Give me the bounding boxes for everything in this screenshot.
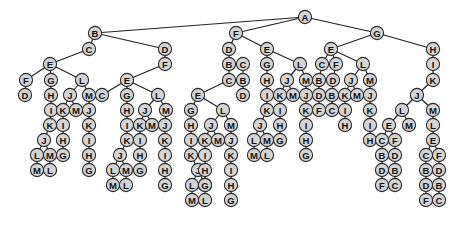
node-label: I — [279, 105, 282, 116]
node-label: E — [195, 90, 201, 101]
tree-node: J — [63, 88, 76, 101]
node-label: L — [360, 59, 366, 70]
tree-node: D — [388, 148, 401, 161]
tree-node: D — [375, 163, 388, 176]
node-label: K — [60, 105, 67, 116]
node-label: H — [162, 165, 169, 176]
tree-node: C — [82, 42, 95, 55]
tree-node: I — [363, 118, 376, 131]
tree-node: J — [410, 88, 423, 101]
tree-node: J — [204, 118, 217, 131]
tree-node: J — [280, 73, 293, 86]
tree-node: I — [184, 133, 197, 146]
node-label: J — [86, 105, 91, 116]
tree-edge — [377, 33, 433, 49]
tree-node: C — [419, 148, 432, 161]
tree-node: M — [30, 163, 43, 176]
tree-node: K — [43, 118, 56, 131]
node-label: J — [41, 135, 46, 146]
tree-node: I — [56, 118, 69, 131]
tree-node: H — [184, 118, 197, 131]
tree-node: H — [273, 118, 286, 131]
node-label: M — [109, 180, 117, 191]
node-label: I — [50, 105, 53, 116]
tree-node: L — [151, 88, 164, 101]
node-label: K — [228, 150, 235, 161]
node-label: H — [228, 180, 235, 191]
tree-node: K — [120, 133, 133, 146]
node-label: D — [330, 75, 337, 86]
tree-node: B — [419, 163, 432, 176]
node-label: B — [226, 59, 233, 70]
node-label: L — [47, 165, 53, 176]
tree-node: D — [419, 178, 432, 191]
node-label: G — [276, 135, 283, 146]
node-label: G — [227, 195, 234, 206]
node-label: I — [230, 165, 233, 176]
tree-node: F — [375, 178, 388, 191]
node-label: M — [46, 150, 54, 161]
tree-node: K — [56, 103, 69, 116]
tree-node: M — [82, 88, 95, 101]
tree-node: B — [432, 178, 445, 191]
node-label: G — [302, 150, 309, 161]
node-label: B — [316, 75, 323, 86]
tree-node: M — [286, 88, 299, 101]
node-label: M — [188, 195, 196, 206]
tree-node: D — [236, 88, 249, 101]
node-label: H — [342, 120, 349, 131]
node-label: D — [22, 90, 29, 101]
tree-node: D — [158, 42, 171, 55]
node-label: K — [47, 120, 54, 131]
node-label: I — [88, 135, 91, 146]
node-label: H — [124, 105, 131, 116]
tree-node: M — [402, 118, 415, 131]
tree-node: L — [43, 163, 56, 176]
tree-node: I — [198, 148, 211, 161]
node-label: C — [319, 59, 326, 70]
node-label: J — [228, 135, 233, 146]
node-label: E — [430, 135, 436, 146]
tree-node: G — [120, 88, 133, 101]
node-label: M — [148, 120, 156, 131]
node-label: F — [233, 28, 239, 39]
node-label: D — [226, 44, 233, 55]
tree-node: J — [363, 88, 376, 101]
node-label: M — [214, 135, 222, 146]
node-label: J — [67, 90, 72, 101]
node-label: G — [373, 28, 380, 39]
node-label: K — [86, 120, 93, 131]
tree-node: M — [426, 103, 439, 116]
node-label: K — [342, 90, 349, 101]
tree-node: C — [236, 57, 249, 70]
tree-node: L — [30, 148, 43, 161]
tree-node: H — [133, 148, 146, 161]
node-label: M — [263, 135, 271, 146]
tree-node: H — [260, 73, 273, 86]
node-label: B — [436, 180, 443, 191]
node-label: L — [399, 105, 405, 116]
tree-node: K — [184, 148, 197, 161]
tree-node: C — [325, 103, 338, 116]
tree-node: L — [119, 178, 132, 191]
node-label: M — [72, 105, 80, 116]
tree-node: L — [426, 118, 439, 131]
node-label: J — [284, 75, 289, 86]
node-label: K — [137, 120, 144, 131]
node-label: G — [136, 165, 143, 176]
node-label: K — [124, 135, 131, 146]
tree-node: D — [18, 88, 31, 101]
node-label: H — [86, 150, 93, 161]
node-label: H — [188, 120, 195, 131]
node-label: L — [297, 59, 303, 70]
tree-node: H — [299, 133, 312, 146]
tree-node: K — [224, 148, 237, 161]
tree-node: M — [145, 118, 158, 131]
node-label: J — [414, 90, 419, 101]
tree-node: J — [82, 103, 95, 116]
tree-node: E — [324, 42, 337, 55]
node-label: H — [367, 135, 374, 146]
tree-node: J — [37, 133, 50, 146]
tree-node: G — [44, 73, 57, 86]
node-label: K — [303, 105, 310, 116]
